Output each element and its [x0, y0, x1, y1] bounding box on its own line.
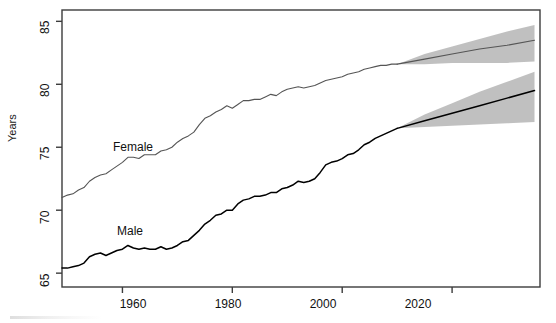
life-expectancy-chart: Years 85 80 75 70 65 1960 1980 2000 2020… [0, 0, 556, 323]
confidence-bands [397, 25, 534, 128]
plot-canvas [0, 0, 556, 323]
data-lines [62, 40, 535, 268]
scan-edge-artifact [10, 316, 102, 319]
axis-ticks [56, 21, 452, 293]
